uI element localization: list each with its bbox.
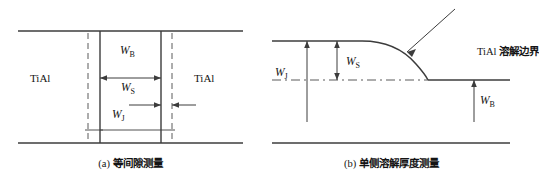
material-label-right: TiAl: [194, 72, 214, 84]
leader-line-dissolution-boundary: [407, 9, 455, 57]
label-wj-symbol: W: [112, 108, 122, 120]
dimension-arrow-ws: [100, 75, 161, 81]
dissolution-boundary-prefix: TiAl: [477, 46, 496, 57]
label-ws-symbol: W: [346, 55, 356, 67]
label-wj-symbol: W: [275, 66, 285, 78]
label-wb-symbol: W: [480, 94, 490, 106]
panel-b-drawing: [261, 0, 522, 181]
label-wj-subscript: J: [285, 72, 288, 81]
caption-a-prefix: (a): [98, 158, 110, 169]
dimension-arrow-wj: [129, 102, 161, 108]
panel-a-equal-gap-measurement: TiAl TiAl WB WS WJ (a) 等间隙测量: [0, 0, 261, 181]
label-wb: WB: [480, 94, 495, 109]
label-wb-subscript: B: [490, 100, 495, 109]
caption-b-text: 单侧溶解厚度测量: [359, 157, 439, 169]
label-ws: WS: [121, 81, 135, 96]
caption-b-prefix: (b): [344, 158, 356, 169]
label-wj-subscript: J: [122, 114, 125, 123]
dimension-arrow-wb: [471, 80, 477, 122]
caption-a-text: 等间隙测量: [113, 157, 163, 169]
label-ws-symbol: W: [121, 81, 131, 93]
label-ws-subscript: S: [356, 61, 360, 70]
dimension-arrow-ws: [334, 41, 340, 80]
label-wb-subscript: B: [130, 50, 135, 59]
dissolution-boundary-text: 溶解边界: [499, 45, 539, 57]
label-wb: WB: [120, 44, 135, 59]
label-ws-subscript: S: [131, 87, 135, 96]
label-wj: WJ: [112, 108, 125, 123]
label-wb-symbol: W: [120, 44, 130, 56]
material-label-left: TiAl: [30, 72, 50, 84]
label-wj: WJ: [275, 66, 288, 81]
caption-panel-b: (b) 单侧溶解厚度测量: [261, 155, 522, 170]
dimension-arrow-dissolution-right: [172, 102, 196, 108]
dimension-arrow-wj: [304, 41, 310, 122]
panel-b-single-side-dissolution-measurement: TiAl 溶解边界 WS WJ WB (b) 单侧溶解厚度测量: [261, 0, 522, 181]
dissolution-boundary-label: TiAl 溶解边界: [477, 43, 539, 58]
label-ws: WS: [346, 55, 360, 70]
caption-panel-a: (a) 等间隙测量: [0, 155, 261, 170]
dissolution-boundary-curve: [362, 41, 428, 80]
